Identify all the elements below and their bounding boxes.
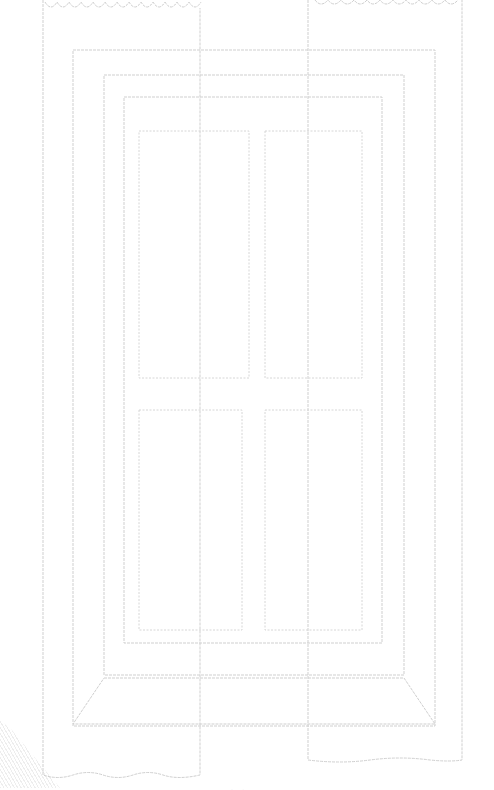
panel-top-left xyxy=(139,131,249,378)
right-curtain xyxy=(308,0,462,762)
inner-frame xyxy=(104,75,404,675)
window-sill xyxy=(73,678,435,724)
left-curtain xyxy=(43,0,201,778)
door-frame xyxy=(124,97,382,643)
panel-bottom-right xyxy=(265,410,362,630)
panel-bottom-left xyxy=(139,410,242,630)
outer-frame xyxy=(73,50,435,726)
caption-text: · · xyxy=(230,778,410,790)
panel-top-right xyxy=(265,131,362,378)
